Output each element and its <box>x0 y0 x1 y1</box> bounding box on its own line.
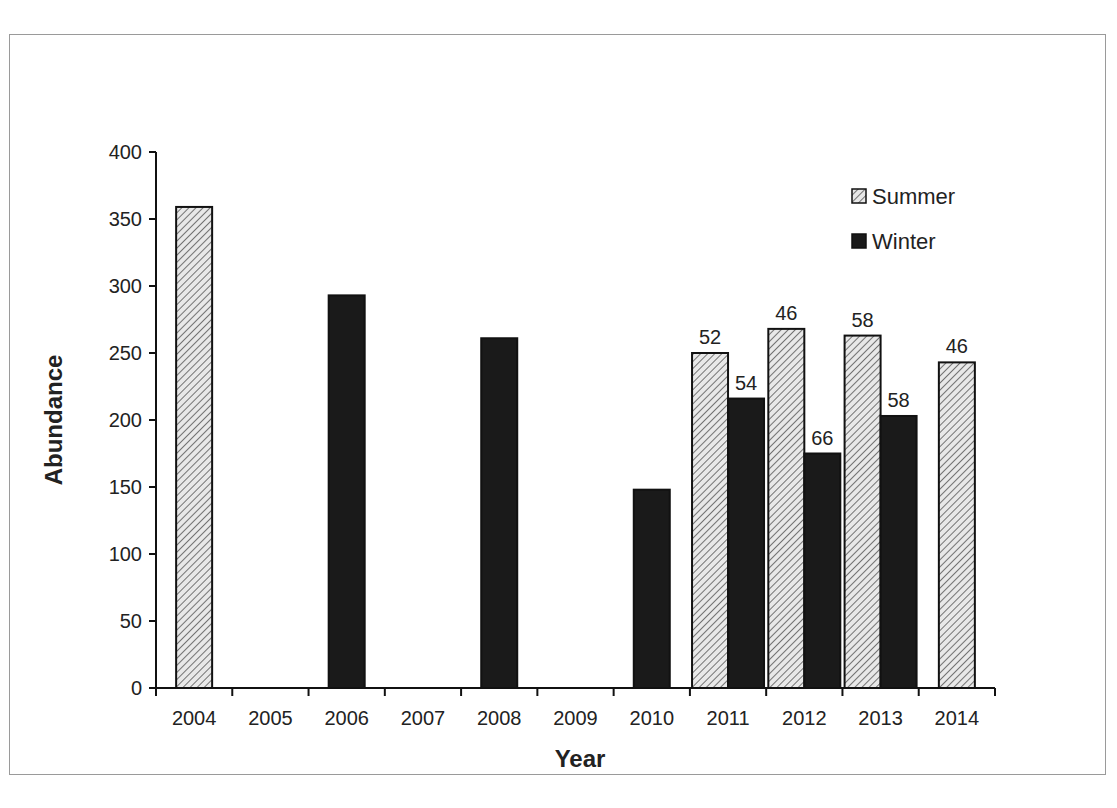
y-tick-label: 100 <box>109 543 142 565</box>
y-tick-label: 300 <box>109 275 142 297</box>
legend-label-winter: Winter <box>872 229 936 254</box>
x-tick-label: 2007 <box>401 707 446 729</box>
winter-bar-2011 <box>728 399 764 688</box>
y-axis-label: Abundance <box>40 355 67 486</box>
data-label: 58 <box>851 309 873 331</box>
winter-bar-2012 <box>804 454 840 689</box>
x-tick-label: 2011 <box>707 707 750 729</box>
x-tick-label: 2005 <box>248 707 293 729</box>
data-label: 66 <box>811 427 833 449</box>
y-tick-label: 350 <box>109 208 142 230</box>
summer-bar-2012 <box>768 329 804 688</box>
summer-bar-2004 <box>176 207 212 688</box>
data-label: 58 <box>887 389 909 411</box>
legend-label-summer: Summer <box>872 184 955 209</box>
winter-bar-2010 <box>634 490 670 688</box>
summer-bar-2013 <box>845 336 881 688</box>
data-label: 46 <box>946 335 968 357</box>
winter-bar-2006 <box>329 295 365 688</box>
x-tick-label: 2013 <box>858 707 903 729</box>
x-axis-label: Year <box>555 745 606 772</box>
x-tick-label: 2012 <box>782 707 827 729</box>
x-tick-label: 2014 <box>935 707 980 729</box>
y-tick-label: 400 <box>109 141 142 163</box>
winter-bar-2008 <box>481 338 517 688</box>
y-tick-label: 250 <box>109 342 142 364</box>
x-tick-label: 2009 <box>553 707 598 729</box>
summer-bar-2014 <box>939 362 975 688</box>
x-tick-label: 2008 <box>477 707 522 729</box>
data-label: 52 <box>699 326 721 348</box>
summer-bar-2011 <box>692 353 728 688</box>
x-tick-label: 2010 <box>630 707 675 729</box>
bars: 52465846546658 <box>176 207 975 688</box>
data-label: 54 <box>735 372 757 394</box>
legend: SummerWinter <box>852 184 955 254</box>
x-tick-label: 2006 <box>324 707 369 729</box>
bar-chart: 0501001502002503003504002004200520062007… <box>0 0 1117 808</box>
x-tick-label: 2004 <box>172 707 217 729</box>
y-tick-label: 0 <box>131 677 142 699</box>
y-tick-label: 50 <box>120 610 142 632</box>
y-tick-label: 150 <box>109 476 142 498</box>
legend-swatch-winter <box>852 234 866 248</box>
y-tick-label: 200 <box>109 409 142 431</box>
legend-swatch-summer <box>852 189 866 203</box>
winter-bar-2013 <box>881 416 917 688</box>
data-label: 46 <box>775 302 797 324</box>
